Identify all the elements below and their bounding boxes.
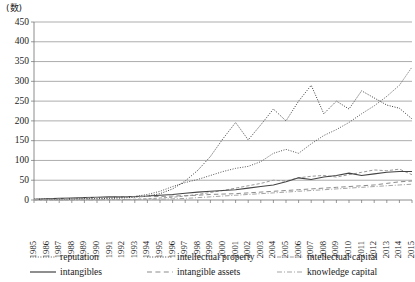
legend-label-intellectual-property: intellectual property [177, 251, 255, 262]
legend-item-intangibles: intangibles [30, 264, 102, 279]
legend-swatch-intellectual-capital [277, 252, 303, 262]
y-axis-tick-label: 100 [15, 155, 30, 165]
legend-swatch-reputation [30, 252, 56, 262]
legend-swatch-intangibles [30, 267, 56, 277]
legend-item-reputation: reputation [30, 249, 99, 264]
legend-label-intellectual-capital: intellectual capital [307, 251, 378, 262]
legend-item-intangible-assets: intangible assets [147, 264, 240, 279]
legend-label-knowledge-capital: knowledge capital [307, 266, 377, 277]
legend-swatch-intellectual-property [147, 252, 173, 262]
legend-swatch-intangible-assets [147, 267, 173, 277]
chart-legend: reputation intellectual property intelle… [0, 248, 415, 282]
y-axis-tick-label: 300 [15, 76, 30, 86]
legend-swatch-knowledge-capital [277, 267, 303, 277]
plot-area: 0501001502002503003504004501985198619871… [0, 0, 415, 282]
y-axis-tick-label: 50 [20, 175, 30, 185]
legend-label-intangible-assets: intangible assets [177, 266, 240, 277]
y-axis-tick-label: 450 [15, 17, 30, 27]
series-line-intangibles [34, 172, 412, 200]
legend-item-intellectual-property: intellectual property [147, 249, 255, 264]
legend-row-2: intangibles intangible assets knowledge … [0, 264, 415, 279]
series-line-reputation [34, 67, 412, 199]
legend-item-knowledge-capital: knowledge capital [277, 264, 377, 279]
y-axis-tick-label: 250 [15, 96, 30, 106]
legend-label-reputation: reputation [60, 251, 99, 262]
y-axis-tick-label: 150 [15, 135, 30, 145]
series-line-intellectual-property [34, 85, 412, 199]
y-axis-tick-label: 400 [15, 36, 30, 46]
legend-label-intangibles: intangibles [60, 266, 102, 277]
legend-row-1: reputation intellectual property intelle… [0, 249, 415, 264]
legend-item-intellectual-capital: intellectual capital [277, 249, 378, 264]
y-axis-tick-label: 200 [15, 116, 30, 126]
y-axis-tick-label: 0 [24, 195, 29, 205]
chart-svg: 0501001502002503003504004501985198619871… [0, 0, 415, 282]
chart-container: (数) 050100150200250300350400450198519861… [0, 0, 415, 282]
y-axis-tick-label: 350 [15, 56, 30, 66]
